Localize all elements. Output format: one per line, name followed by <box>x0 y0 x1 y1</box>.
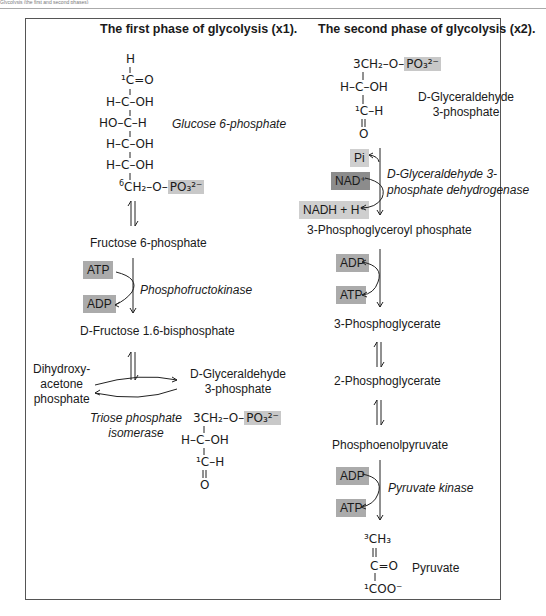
right-title: The second phase of glycolysis (x2). <box>318 22 535 36</box>
triose-phosphate-isomerase-label: Triose phosphate isomerase <box>90 411 182 441</box>
pyruvate-c3: ³CH₃ <box>364 532 391 547</box>
page-header-caption: Glycolysis (the first and second phases) <box>0 0 546 4</box>
glucose-line-c5: H–C–OH <box>106 158 154 173</box>
phosphate-box: PO₃²⁻ <box>168 180 205 194</box>
dhap-line1: Dihydroxy- <box>33 362 90 377</box>
g3p-line2: 3-phosphate <box>418 105 514 120</box>
glucose-6-phosphate-label: Glucose 6-phosphate <box>172 117 286 131</box>
gapdh-line2: phosphate dehydrogenase <box>387 182 529 198</box>
pi-box: Pi <box>350 149 369 167</box>
ch2-o: CH₂–O– <box>124 180 168 194</box>
dhap-label: Dihydroxy- acetone phosphate <box>33 362 90 407</box>
3-phosphoglycerate-label: 3-Phosphoglycerate <box>334 317 441 331</box>
ch2-o: 3CH₂–O– <box>193 411 244 425</box>
g3p-c2-line: H–C–OH <box>181 433 229 448</box>
atp-box: ATP <box>83 261 113 279</box>
g3p-label-right: D-Glyceraldehyde 3-phosphate <box>418 90 514 120</box>
phosphofructokinase-label: Phosphofructokinase <box>140 283 252 297</box>
g3p-line1: D-Glyceraldehyde <box>190 367 286 382</box>
nad-box: NAD⁺ <box>331 172 370 190</box>
g3p-c1-line: ¹C–H <box>355 104 383 119</box>
adp-box: ADP <box>336 467 369 485</box>
g3p-c1-line: ¹C–H <box>196 455 224 470</box>
phosphoenolpyruvate-label: Phosphoenolpyruvate <box>332 438 448 452</box>
fructose-6-phosphate-label: Fructose 6-phosphate <box>90 236 207 250</box>
fructose-1-6-bisphosphate-label: D-Fructose 1.6-bisphosphate <box>80 324 235 338</box>
g3p-c3-line: 3CH₂–O–PO₃²⁻ <box>353 57 441 72</box>
left-title: The first phase of glycolysis (x1). <box>100 22 297 36</box>
pyruvate-c2: C=O <box>370 559 398 574</box>
glucose-line-c1: ¹C=O <box>121 73 154 88</box>
gapdh-enzyme-label: D-Glyceraldehyde 3- phosphate dehydrogen… <box>387 166 529 198</box>
pyruvate-label: Pyruvate <box>412 561 459 575</box>
dhap-line2: acetone <box>33 377 90 392</box>
tpi-line2: isomerase <box>90 426 182 441</box>
g3p-line1: D-Glyceraldehyde <box>418 90 514 105</box>
phosphate-box: PO₃²⁻ <box>244 411 281 425</box>
header-divider <box>0 8 546 9</box>
dhap-line3: phosphate <box>33 392 90 407</box>
g3p-c3-line: 3CH₂–O–PO₃²⁻ <box>193 411 281 426</box>
pyruvate-kinase-label: Pyruvate kinase <box>388 481 473 495</box>
glucose-line-h: H <box>126 52 135 67</box>
pyruvate-bonds <box>0 0 1 1</box>
phosphate-box: PO₃²⁻ <box>404 57 441 71</box>
2-phosphoglycerate-label: 2-Phosphoglycerate <box>334 374 441 388</box>
pyruvate-c1: ¹COO⁻ <box>364 582 402 597</box>
glucose-line-c4: H–C–OH <box>106 137 154 152</box>
glucose-line-c3: HO–C–H <box>99 116 147 131</box>
atp-box: ATP <box>336 499 366 517</box>
ch2-o: 3CH₂–O– <box>353 57 404 71</box>
bisphosphoglycerate-label: 3-Phosphoglyceroyl phosphate <box>307 223 472 237</box>
glucose-line-c2: H–C–OH <box>106 95 154 110</box>
glucose-line-c6: 6CH₂–O–PO₃²⁻ <box>119 180 204 195</box>
g3p-oxygen: O <box>359 127 368 142</box>
tpi-line1: Triose phosphate <box>90 411 182 426</box>
g3p-oxygen: O <box>200 478 209 493</box>
atp-box: ATP <box>336 286 366 304</box>
nadh-box: NADH + H⁺ <box>299 201 369 219</box>
gapdh-line1: D-Glyceraldehyde 3- <box>387 166 529 182</box>
g3p-label-left: D-Glyceraldehyde 3-phosphate <box>190 367 286 397</box>
g3p-c2-line: H–C–OH <box>340 80 388 95</box>
g3p-line2: 3-phosphate <box>190 382 286 397</box>
adp-box: ADP <box>83 295 116 313</box>
